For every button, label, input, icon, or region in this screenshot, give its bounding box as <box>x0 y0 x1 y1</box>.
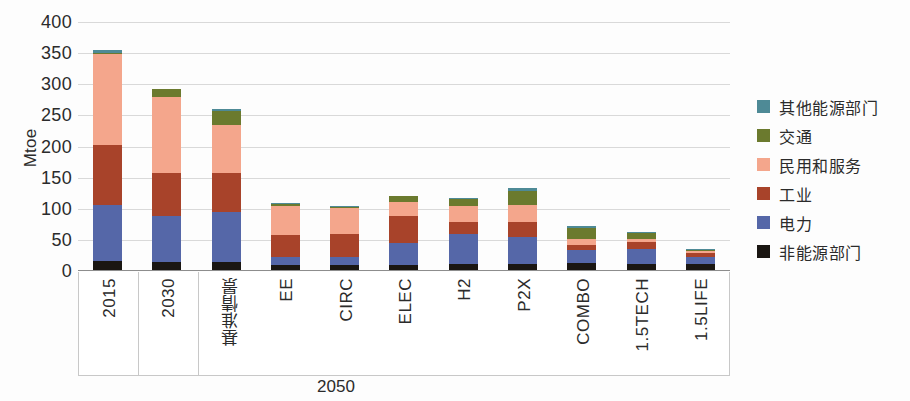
bar-segment <box>449 206 478 222</box>
plot-area <box>78 22 730 271</box>
stacked-bar[interactable] <box>93 50 122 271</box>
bar-segment <box>330 257 359 265</box>
bar-segment <box>330 208 359 234</box>
y-axis-tick-label: 0 <box>12 261 72 282</box>
y-axis-tick-label: 250 <box>12 105 72 126</box>
bar-slot <box>374 22 433 271</box>
bar-slot <box>434 22 493 271</box>
stacked-bar[interactable] <box>686 249 715 271</box>
bar-segment <box>567 250 596 263</box>
x-axis-baseline <box>78 270 730 272</box>
bar-segment <box>152 89 181 97</box>
bar-slot <box>256 22 315 271</box>
stacked-bar[interactable] <box>567 226 596 271</box>
bar-segment <box>389 243 418 265</box>
legend-item-2[interactable]: 交通 <box>757 121 907 150</box>
bar-segment <box>449 199 478 206</box>
bar-segment <box>449 222 478 234</box>
bar-segment <box>508 222 537 236</box>
bar-segment <box>93 145 122 205</box>
bar-group <box>78 22 730 271</box>
bar-segment <box>152 173 181 216</box>
stacked-bar[interactable] <box>152 89 181 271</box>
y-axis-tick-label: 350 <box>12 43 72 64</box>
bar-slot <box>611 22 670 271</box>
chart-container: Mtoe 400350300250200150100500 20152030基准… <box>0 0 910 401</box>
stacked-bar[interactable] <box>330 206 359 271</box>
bar-segment <box>271 235 300 257</box>
bar-segment <box>93 205 122 261</box>
legend-swatch-icon <box>757 245 770 258</box>
group-separator <box>198 272 199 375</box>
legend-item-1[interactable]: 其他能源部门 <box>757 92 907 121</box>
stacked-bar[interactable] <box>212 109 241 271</box>
legend-item-label: 民用和服务 <box>779 153 862 177</box>
bar-segment <box>212 125 241 173</box>
bar-slot <box>552 22 611 271</box>
stacked-bar[interactable] <box>627 232 656 271</box>
legend-item-label: 交通 <box>779 124 812 148</box>
bar-segment <box>389 202 418 216</box>
legend-item-3[interactable]: 民用和服务 <box>757 150 907 179</box>
bar-segment <box>508 205 537 222</box>
bar-segment <box>449 234 478 264</box>
stacked-bar[interactable] <box>508 188 537 271</box>
y-axis-tick-label: 200 <box>12 136 72 157</box>
legend-swatch-icon <box>757 129 770 142</box>
bar-slot <box>315 22 374 271</box>
x-axis-label-band: 20152030基准情景EECIRCELECH2P2XCOMBO1.5TECH1… <box>78 272 730 376</box>
group-separator <box>138 272 139 375</box>
legend-swatch-icon <box>757 216 770 229</box>
y-axis-tick-label: 150 <box>12 167 72 188</box>
legend-swatch-icon <box>757 158 770 171</box>
y-axis-tick-label: 100 <box>12 198 72 219</box>
y-axis-tick-label: 400 <box>12 12 72 33</box>
y-axis-tick-label: 300 <box>12 74 72 95</box>
stacked-bar[interactable] <box>271 203 300 271</box>
legend-item-5[interactable]: 电力 <box>757 208 907 237</box>
bar-segment <box>508 237 537 264</box>
bar-segment <box>152 97 181 174</box>
bar-segment <box>330 234 359 257</box>
bar-segment <box>93 54 122 145</box>
stacked-bar[interactable] <box>389 196 418 271</box>
legend-swatch-icon <box>757 187 770 200</box>
bar-segment <box>271 257 300 264</box>
y-axis-ticks: 400350300250200150100500 <box>14 0 72 401</box>
bar-segment <box>212 173 241 212</box>
bar-segment <box>567 228 596 239</box>
bar-slot <box>197 22 256 271</box>
bar-segment <box>686 257 715 264</box>
bar-segment <box>627 249 656 264</box>
legend-item-4[interactable]: 工业 <box>757 179 907 208</box>
legend-item-label: 非能源部门 <box>779 240 862 264</box>
legend-item-label: 其他能源部门 <box>779 95 878 119</box>
stacked-bar[interactable] <box>449 198 478 271</box>
legend: 其他能源部门交通民用和服务工业电力非能源部门 <box>757 92 907 266</box>
bar-slot <box>137 22 196 271</box>
bar-segment <box>271 206 300 235</box>
bar-segment <box>508 191 537 205</box>
bar-segment <box>212 212 241 262</box>
bar-slot <box>671 22 730 271</box>
bar-segment <box>212 111 241 125</box>
bar-slot <box>493 22 552 271</box>
x-axis-tick-label: 1.5LIFE <box>692 278 792 341</box>
legend-item-label: 电力 <box>779 211 812 235</box>
legend-item-6[interactable]: 非能源部门 <box>757 237 907 266</box>
y-axis-tick-label: 50 <box>12 229 72 250</box>
bar-segment <box>389 216 418 243</box>
legend-swatch-icon <box>757 100 770 113</box>
legend-item-label: 工业 <box>779 182 812 206</box>
x-axis-group-label: 2050 <box>78 377 730 397</box>
bar-segment <box>152 216 181 262</box>
bar-slot <box>78 22 137 271</box>
